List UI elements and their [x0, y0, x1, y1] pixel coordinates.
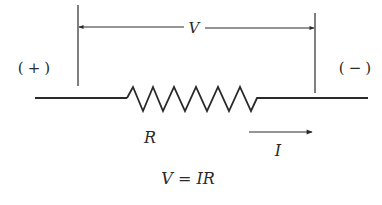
- resistor-label: R: [143, 128, 156, 147]
- negative-terminal-label: (−): [339, 59, 375, 77]
- ohms-law-equation: V = IR: [161, 169, 215, 188]
- resistor-zigzag-icon: [127, 87, 262, 111]
- voltage-label: V: [189, 19, 202, 37]
- ohms-law-diagram: V (+) (−) R I V = IR: [0, 0, 382, 205]
- current-label: I: [274, 141, 282, 160]
- positive-terminal-label: (+): [18, 59, 54, 77]
